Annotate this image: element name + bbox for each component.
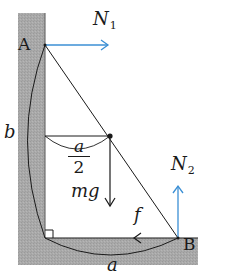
half-base-denominator: 2 [68,157,90,176]
point-b-dot [177,237,180,240]
height-b-label: b [4,123,16,141]
half-base-fraction: a 2 [68,138,90,176]
normal-force-1-subscript: 1 [110,19,117,32]
friction-label: f [134,206,141,224]
normal-force-1-symbol: N [93,8,109,29]
normal-force-2-label: N2 [171,155,195,176]
base-a-label: a [107,256,118,274]
weight-label: mg [71,182,100,200]
right-angle-marker [45,230,53,238]
half-base-numerator: a [68,138,90,157]
ladder-statics-diagram: A B N1 N2 mg f b a a 2 [0,0,228,276]
normal-force-1-label: N1 [93,10,117,31]
point-a-dot [44,44,47,47]
normal-force-2-symbol: N [171,153,187,174]
ladder [45,45,178,238]
point-b-label: B [183,236,196,253]
normal-force-2-subscript: 2 [188,164,195,177]
point-a-label: A [18,36,30,53]
